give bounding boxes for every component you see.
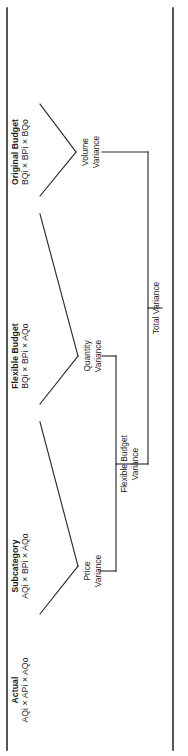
connector-subcategory-to-price: [40, 422, 78, 566]
level-actual-heading: Actual: [10, 657, 20, 722]
variance-flexible-budget-line2: Variance: [130, 435, 141, 493]
diagram-rotated-group: Original Budget BQi × BPi × BQo Flexible…: [0, 0, 188, 756]
connector-original-to-volume: [40, 104, 76, 152]
connector-flexible-to-quantity: [40, 214, 78, 356]
variance-quantity-line1: Quantity: [82, 340, 93, 372]
variance-volume-line1: Volume: [80, 136, 91, 168]
variance-price-line1: Price: [82, 555, 93, 587]
level-original-budget-heading: Original Budget: [10, 119, 20, 185]
level-subcategory-heading: Subcategory: [10, 533, 20, 599]
variance-quantity-line2: Variance: [93, 340, 104, 372]
level-original-budget: Original Budget BQi × BPi × BQo: [10, 119, 31, 185]
level-actual-formula: AQi × APi × AQo: [20, 657, 30, 722]
connector-flexible-to-volume: [40, 152, 76, 196]
variance-price: Price Variance: [82, 555, 103, 587]
level-flexible-budget-formula: BQi × BPi × AQo: [20, 323, 30, 389]
level-subcategory: Subcategory AQi × BPi × AQo: [10, 533, 31, 599]
variance-total-line1: Total Variance: [151, 282, 162, 334]
diagram-canvas: Original Budget BQi × BPi × BQo Flexible…: [0, 0, 188, 756]
variance-flexible-budget-line1: Flexible Budget: [119, 435, 130, 493]
level-flexible-budget-heading: Flexible Budget: [10, 323, 20, 389]
variance-price-line2: Variance: [93, 555, 104, 587]
connector-actual-to-price: [40, 566, 78, 614]
level-subcategory-formula: AQi × BPi × AQo: [20, 533, 30, 599]
level-flexible-budget: Flexible Budget BQi × BPi × AQo: [10, 323, 31, 389]
variance-quantity: Quantity Variance: [82, 340, 103, 372]
variance-volume-line2: Variance: [91, 136, 102, 168]
variance-volume: Volume Variance: [80, 136, 101, 168]
variance-total: Total Variance: [151, 282, 162, 334]
level-original-budget-formula: BQi × BPi × BQo: [20, 119, 30, 185]
level-actual: Actual AQi × APi × AQo: [10, 657, 31, 722]
connector-subcategory-to-quantity: [40, 356, 78, 404]
variance-flexible-budget: Flexible Budget Variance: [119, 435, 140, 493]
